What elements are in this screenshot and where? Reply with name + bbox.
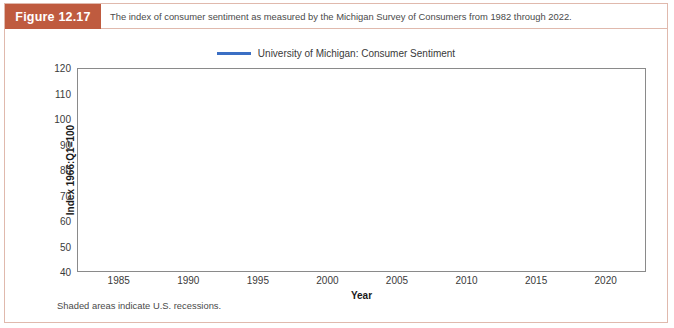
legend-label: University of Michigan: Consumer Sentime… [258, 48, 455, 59]
y-tick-label: 120 [41, 63, 71, 74]
figure-footnote: Shaded areas indicate U.S. recessions. [57, 300, 221, 311]
y-tick-label: 40 [41, 267, 71, 278]
x-tick-label: 2005 [386, 275, 408, 286]
plot-frame [77, 68, 646, 272]
y-tick-label: 100 [41, 114, 71, 125]
x-tick-label: 2015 [525, 275, 547, 286]
x-tick-label: 2010 [455, 275, 477, 286]
y-tick-label: 110 [41, 88, 71, 99]
y-tick-label: 50 [41, 241, 71, 252]
figure-caption-container: The index of consumer sentiment as measu… [101, 4, 667, 29]
figure-caption: The index of consumer sentiment as measu… [110, 11, 572, 22]
x-tick-label: 2000 [316, 275, 338, 286]
x-tick-label: 1985 [108, 275, 130, 286]
y-tick-label: 60 [41, 216, 71, 227]
x-tick-label: 1995 [247, 275, 269, 286]
chart-legend: University of Michigan: Consumer Sentime… [5, 48, 667, 59]
plot-area: Index 1966:Q1=100 405060708090100110120 … [77, 68, 646, 272]
y-tick-label: 90 [41, 139, 71, 150]
figure-header: Figure 12.17 The index of consumer senti… [5, 4, 667, 29]
x-tick-label: 2020 [595, 275, 617, 286]
x-tick-label: 1990 [177, 275, 199, 286]
figure-card: Figure 12.17 The index of consumer senti… [4, 3, 668, 323]
figure-number: Figure 12.17 [5, 4, 101, 29]
y-tick-label: 70 [41, 190, 71, 201]
legend-line-swatch [217, 52, 251, 55]
y-tick-label: 80 [41, 165, 71, 176]
